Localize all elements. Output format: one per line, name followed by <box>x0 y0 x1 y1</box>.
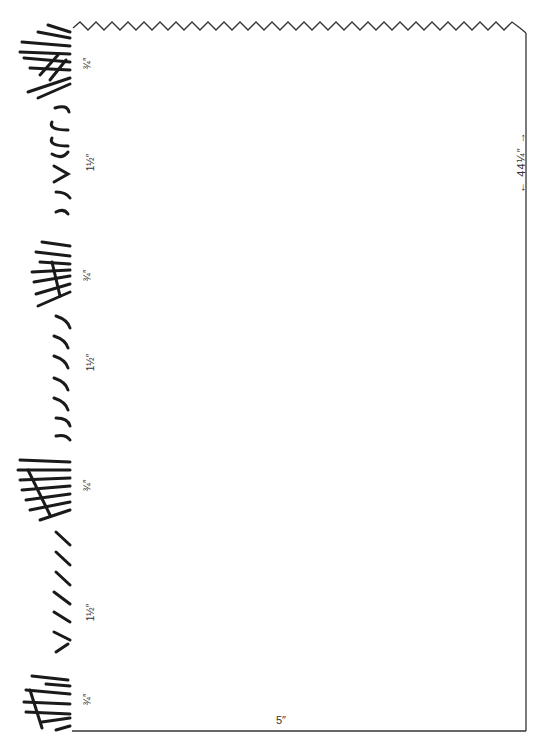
fringe-label-1: ¾″ <box>82 58 93 70</box>
fringe-label-4: 1½″ <box>85 354 96 371</box>
length-dimension-label: ← 44¼″ → <box>515 131 527 192</box>
width-dimension-label: 5″ <box>276 714 286 726</box>
fringe-label-3: ¾″ <box>82 270 93 282</box>
fringe-label-7: ¾″ <box>82 694 93 706</box>
fringe-left-edge <box>18 25 70 730</box>
pinked-top-edge <box>73 22 526 33</box>
pattern-outline <box>0 0 550 751</box>
fringe-label-6: 1½″ <box>85 604 96 621</box>
fringe-label-2: 1½″ <box>85 154 96 171</box>
fringe-label-5: ¾″ <box>82 480 93 492</box>
